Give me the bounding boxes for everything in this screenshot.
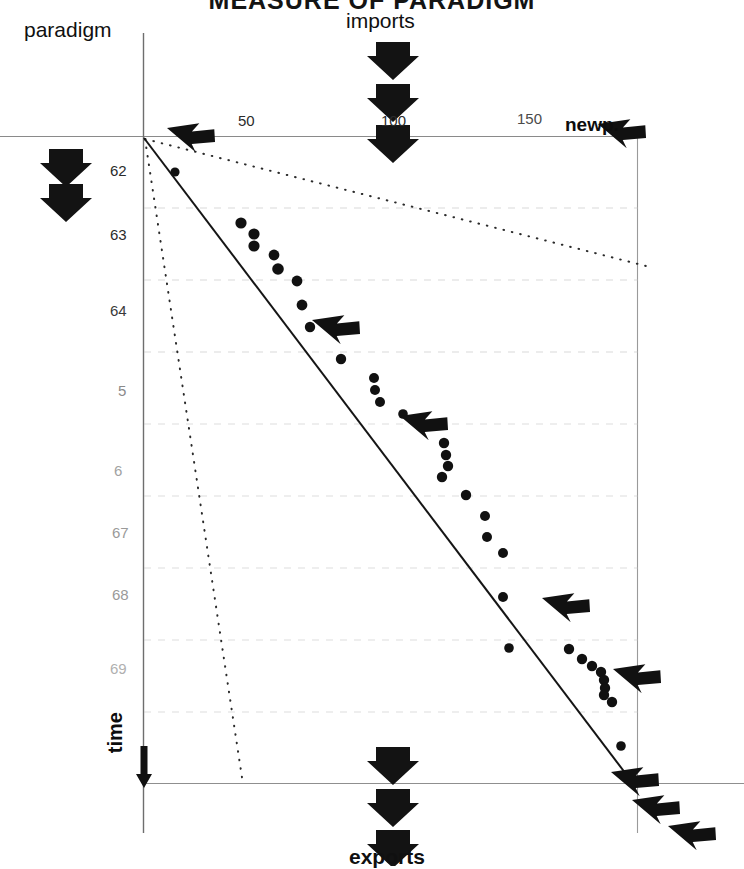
imports-label: imports: [346, 9, 415, 33]
arrow-imports-1-icon: [367, 42, 419, 80]
data-point: [504, 643, 514, 653]
xtick-100: 100: [381, 112, 406, 129]
data-point: [498, 548, 508, 558]
paradigm-label: paradigm: [24, 18, 112, 42]
arrow-exports-1-icon: [367, 747, 419, 785]
newp-axis-label: newp.: [565, 114, 619, 136]
data-point: [235, 217, 246, 228]
arrow-origin-icon: [163, 115, 219, 156]
lower-dotted-line: [145, 139, 243, 784]
arrow-paradigm-1-icon: [40, 149, 92, 187]
annotation-arrows: [40, 42, 720, 866]
arrow-corner-icon: [607, 759, 663, 800]
data-point: [269, 250, 280, 261]
trend-line: [144, 138, 632, 782]
ytick-69: 69: [110, 660, 127, 677]
ytick-62: 62: [110, 162, 127, 179]
ytick-66: 6: [114, 462, 122, 479]
data-point: [616, 741, 626, 751]
xtick-150: 150: [517, 110, 542, 127]
data-point: [292, 276, 303, 287]
arrow-below-corner-icon: [628, 787, 684, 828]
exports-label: exports: [349, 845, 425, 869]
data-point: [482, 532, 492, 542]
arrow-below-corner-2-icon: [664, 813, 720, 854]
data-point: [564, 644, 574, 654]
ytick-65: 5: [118, 382, 126, 399]
ytick-64: 64: [110, 302, 127, 319]
data-point: [498, 592, 508, 602]
time-axis-label: time: [104, 712, 127, 753]
data-point: [577, 654, 587, 664]
arrow-lower-left-icon: [538, 585, 594, 626]
data-point: [599, 690, 609, 700]
ytick-63: 63: [110, 226, 127, 243]
data-point: [375, 397, 385, 407]
gridlines: [144, 208, 638, 712]
data-point: [480, 511, 490, 521]
data-point: [297, 300, 308, 311]
data-point: [587, 661, 597, 671]
arrow-exports-2-icon: [367, 789, 419, 827]
ytick-68: 68: [112, 586, 129, 603]
data-point: [370, 385, 380, 395]
data-point: [248, 228, 259, 239]
ytick-67: 67: [112, 524, 129, 541]
data-point: [170, 167, 179, 176]
arrow-mid-upper-icon: [308, 307, 364, 348]
data-point: [336, 354, 346, 364]
data-point: [441, 450, 451, 460]
scatter-series: [170, 167, 625, 750]
arrow-paradigm-2-icon: [40, 184, 92, 222]
data-point: [461, 490, 471, 500]
data-point: [439, 438, 449, 448]
data-point: [248, 240, 259, 251]
data-point: [272, 263, 284, 275]
arrow-time-icon: [136, 746, 152, 788]
arrow-lower-right-icon: [609, 656, 665, 697]
xtick-50: 50: [238, 112, 255, 129]
data-point: [369, 373, 379, 383]
arrow-imports-3-icon: [367, 125, 419, 163]
data-point: [607, 697, 617, 707]
data-point: [305, 322, 315, 332]
data-point: [437, 472, 447, 482]
data-point: [443, 461, 453, 471]
